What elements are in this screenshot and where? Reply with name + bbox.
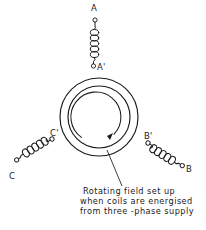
coil-a-windings	[90, 30, 98, 58]
label-c: C	[9, 171, 15, 181]
coil-a-lead-top	[94, 22, 96, 29]
rotation-arrowhead	[107, 133, 113, 140]
caption-block: Rotating field set up when coils are ene…	[80, 186, 194, 216]
coil-b-turn-5	[167, 155, 177, 165]
rotating-field-arrow-icon	[64, 86, 126, 146]
coil-a: A A'	[90, 3, 105, 72]
caption-line-2: when coils are energised	[80, 196, 193, 206]
label-c-prime: C'	[50, 128, 59, 138]
rotation-arc	[64, 86, 126, 146]
stator-diagram: A A' B' B	[0, 0, 206, 230]
terminal-a-node[interactable]	[93, 18, 97, 22]
coil-c-windings	[21, 136, 49, 158]
terminal-a-prime-node[interactable]	[91, 64, 95, 68]
label-b-prime: B'	[144, 131, 153, 141]
coil-b	[143, 140, 186, 171]
caption-leader-line	[107, 150, 122, 186]
coil-c	[12, 133, 55, 164]
label-a: A	[91, 3, 97, 13]
label-a-prime: A'	[97, 62, 106, 72]
figure-canvas: A A' B' B	[0, 0, 206, 230]
terminal-c-node[interactable]	[14, 157, 20, 163]
caption-line-1: Rotating field set up	[83, 186, 175, 196]
label-b: B	[186, 164, 192, 174]
stator-ring	[60, 78, 138, 156]
coil-a-lead-bottom	[94, 58, 96, 65]
stator-outer-circle	[60, 78, 138, 156]
caption-line-3: from three -phase supply	[80, 206, 194, 216]
coil-c-turn-5	[21, 148, 31, 158]
terminal-b-node[interactable]	[179, 163, 185, 169]
